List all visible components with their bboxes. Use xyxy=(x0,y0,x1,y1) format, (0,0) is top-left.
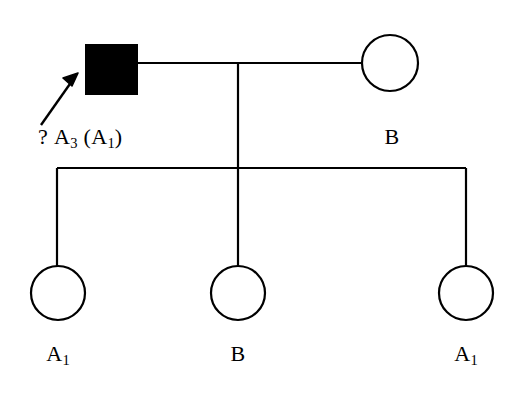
label-father-alt-allele: A xyxy=(91,124,107,149)
label-child-1-allele: A xyxy=(46,341,62,366)
individual-child-1-circle xyxy=(31,266,85,320)
label-father-paren-close: ) xyxy=(115,124,123,149)
individual-father-square xyxy=(86,45,137,94)
label-child-3-allele: A xyxy=(454,341,470,366)
individual-mother-circle xyxy=(362,35,418,91)
label-child-3-allele-subscript: 1 xyxy=(470,352,477,368)
pedigree-lines-layer xyxy=(0,0,520,395)
label-child-2-allele: B xyxy=(231,341,246,366)
label-child-1-allele-subscript: 1 xyxy=(62,352,69,368)
label-father-unknown-marker: ? xyxy=(38,124,48,149)
label-father-allele: A xyxy=(54,124,70,149)
label-child-3-genotype: A1 xyxy=(454,343,477,365)
pedigree-diagram: ? A3 (A1) B A1 B A1 xyxy=(0,0,520,395)
label-father-genotype: ? A3 (A1) xyxy=(38,126,122,148)
label-child-2-genotype: B xyxy=(231,343,246,365)
label-father-alt-allele-subscript: 1 xyxy=(107,135,114,151)
label-father-allele-subscript: 3 xyxy=(70,135,77,151)
label-child-1-genotype: A1 xyxy=(46,343,69,365)
label-mother-genotype: B xyxy=(385,126,400,148)
label-mother-allele: B xyxy=(385,124,400,149)
individual-child-3-circle xyxy=(439,266,493,320)
individual-child-2-circle xyxy=(211,266,265,320)
proband-arrow-icon xyxy=(41,73,78,125)
